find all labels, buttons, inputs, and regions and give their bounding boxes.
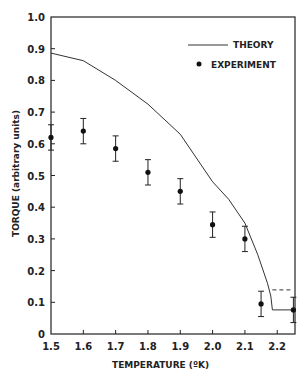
y-tick-label: 0.4 bbox=[27, 202, 45, 213]
torque-vs-temperature-chart: 00.10.20.30.40.50.60.70.80.91.0 1.51.61.… bbox=[0, 0, 306, 378]
legend-experiment-dot-icon bbox=[197, 62, 202, 67]
x-tick-label: 1.8 bbox=[139, 341, 157, 352]
x-tick-label: 1.5 bbox=[42, 341, 60, 352]
x-tick-label: 2.0 bbox=[204, 341, 222, 352]
y-tick-label: 0.2 bbox=[27, 266, 45, 277]
y-tick-label: 0.5 bbox=[27, 171, 45, 182]
x-axis-ticks: 1.51.61.71.81.92.02.12.2 bbox=[42, 330, 286, 352]
data-dot bbox=[48, 135, 53, 140]
y-axis-title: TORQUE (arbitrary units) bbox=[11, 110, 21, 237]
x-tick-label: 1.7 bbox=[107, 341, 125, 352]
legend-experiment-label: EXPERIMENT bbox=[211, 60, 277, 70]
x-tick-label: 1.9 bbox=[171, 341, 189, 352]
experiment-point bbox=[177, 179, 183, 204]
x-tick-label: 1.6 bbox=[74, 341, 92, 352]
legend: THEORY EXPERIMENT bbox=[188, 40, 277, 70]
data-dot bbox=[258, 301, 263, 306]
y-tick-label: 0.8 bbox=[27, 75, 45, 86]
experiment-point bbox=[210, 212, 216, 237]
legend-theory-label: THEORY bbox=[233, 40, 274, 50]
data-dot bbox=[81, 129, 86, 134]
theory-curve bbox=[51, 53, 293, 310]
data-dot bbox=[291, 307, 296, 312]
experiment-point bbox=[145, 160, 151, 185]
experiment-point bbox=[258, 291, 264, 316]
data-dot bbox=[210, 222, 215, 227]
y-tick-label: 0 bbox=[38, 329, 45, 340]
y-tick-label: 1.0 bbox=[27, 12, 45, 23]
y-tick-label: 0.9 bbox=[27, 44, 45, 55]
data-dot bbox=[242, 236, 247, 241]
x-tick-label: 2.2 bbox=[268, 341, 286, 352]
experiment-point bbox=[48, 125, 54, 150]
x-tick-label: 2.1 bbox=[236, 341, 254, 352]
y-tick-label: 0.6 bbox=[27, 139, 45, 150]
series-layer bbox=[48, 53, 296, 322]
y-tick-label: 0.1 bbox=[27, 297, 45, 308]
data-dot bbox=[178, 189, 183, 194]
experiment-point bbox=[80, 118, 86, 143]
y-tick-label: 0.7 bbox=[27, 107, 45, 118]
data-dot bbox=[113, 146, 118, 151]
experiment-point bbox=[242, 226, 248, 251]
experiment-point bbox=[113, 136, 119, 161]
x-axis-title: TEMPERATURE (ºK) bbox=[112, 360, 209, 370]
data-dot bbox=[145, 170, 150, 175]
y-tick-label: 0.3 bbox=[27, 234, 45, 245]
